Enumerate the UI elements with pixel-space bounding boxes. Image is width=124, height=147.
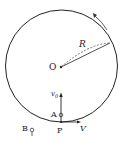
label-o: O	[49, 62, 56, 72]
v0-arrowhead-icon	[59, 93, 62, 98]
label-a: A	[50, 110, 57, 119]
diagram-canvas: O R v0 A P B V	[0, 0, 124, 147]
label-r: R	[78, 39, 86, 49]
label-b: B	[22, 124, 28, 133]
particle-b	[30, 128, 34, 136]
label-p: P	[57, 126, 63, 135]
label-v0: v0	[51, 90, 59, 99]
label-v: V	[80, 124, 87, 133]
